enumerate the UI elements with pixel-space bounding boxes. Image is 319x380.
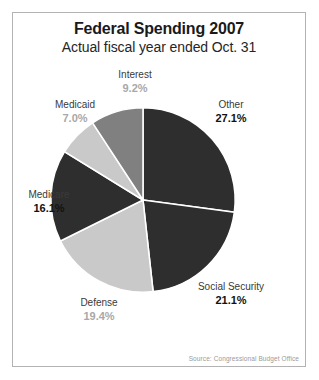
pie-label-social-security-value: 21.1% [185, 294, 277, 306]
pie-label-interest-name: Interest [97, 69, 173, 81]
pie-label-medicaid-name: Medicaid [37, 99, 113, 111]
pie-label-medicare: Medicare 16.1% [11, 189, 87, 214]
pie-label-social-security: Social Security 21.1% [185, 281, 277, 306]
pie-label-medicaid-value: 7.0% [37, 112, 113, 124]
pie-label-defense-name: Defense [59, 297, 139, 309]
pie-label-other-value: 27.1% [189, 112, 273, 124]
pie-label-defense: Defense 19.4% [59, 297, 139, 322]
pie-label-medicaid: Medicaid 7.0% [37, 99, 113, 124]
pie-slice-social-security[interactable] [143, 200, 234, 292]
pie-label-medicare-value: 16.1% [11, 202, 87, 214]
pie-label-other: Other 27.1% [189, 99, 273, 124]
pie-label-social-security-name: Social Security [185, 281, 277, 293]
chart-frame: Federal Spending 2007 Actual fiscal year… [12, 12, 306, 367]
pie-label-defense-value: 19.4% [59, 310, 139, 322]
pie-label-interest-value: 9.2% [97, 82, 173, 94]
pie-label-medicare-name: Medicare [11, 189, 87, 201]
source-attribution: Source: Congressional Budget Office [189, 355, 299, 362]
pie-label-interest: Interest 9.2% [97, 69, 173, 94]
pie-label-other-name: Other [189, 99, 273, 111]
pie-chart: Other 27.1% Social Security 21.1% Defens… [13, 13, 307, 368]
